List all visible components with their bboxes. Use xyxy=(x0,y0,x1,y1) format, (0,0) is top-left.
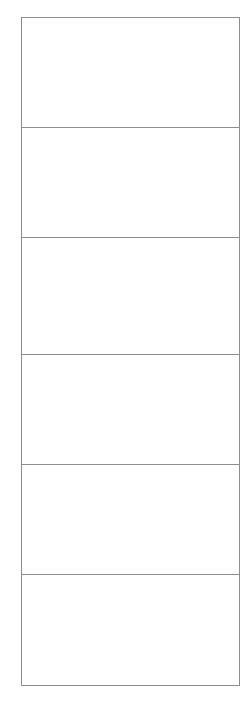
table-cell[interactable] xyxy=(22,465,239,574)
table-row[interactable] xyxy=(22,18,239,128)
table-cell[interactable] xyxy=(22,355,239,464)
table-row[interactable] xyxy=(22,238,239,355)
table-row[interactable] xyxy=(22,355,239,465)
table-cell[interactable] xyxy=(22,575,239,685)
table-cell[interactable] xyxy=(22,238,239,354)
table-row[interactable] xyxy=(22,575,239,685)
table-row[interactable] xyxy=(22,465,239,575)
table-cell[interactable] xyxy=(22,18,239,127)
page-canvas xyxy=(0,0,249,701)
table-cell[interactable] xyxy=(22,128,239,237)
empty-table-grid[interactable] xyxy=(21,17,240,686)
table-row[interactable] xyxy=(22,128,239,238)
